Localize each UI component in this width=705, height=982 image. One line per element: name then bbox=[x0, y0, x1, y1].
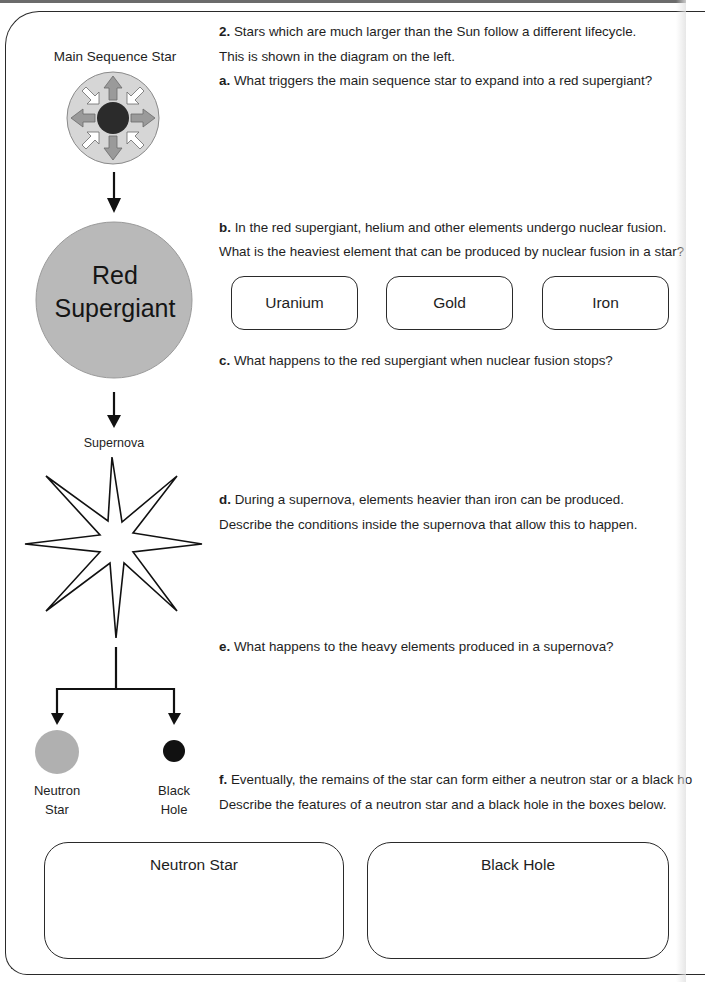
black-hole-label: Black Hole bbox=[134, 781, 214, 819]
black-hole-answer-box[interactable]: Black Hole bbox=[367, 842, 669, 959]
part-d-question-line2: Describe the conditions inside the super… bbox=[219, 517, 637, 533]
branch-arrows bbox=[51, 647, 181, 725]
part-a-text: What triggers the main sequence star to … bbox=[234, 73, 652, 88]
part-f-question: f. Eventually, the remains of the star c… bbox=[219, 772, 692, 788]
part-f-text: Eventually, the remains of the star can … bbox=[231, 772, 692, 787]
neutron-star-answer-box[interactable]: Neutron Star bbox=[44, 842, 344, 959]
part-d-text: During a supernova, elements heavier tha… bbox=[235, 492, 624, 507]
part-a-question: a. What triggers the main sequence star … bbox=[219, 73, 652, 89]
arrow-down-icon bbox=[107, 392, 121, 428]
red-supergiant-label: Red Supergiant bbox=[30, 259, 200, 325]
red-supergiant-label-line2: Supergiant bbox=[30, 292, 200, 325]
part-a-label: a. bbox=[219, 73, 230, 88]
option-gold-button[interactable]: Gold bbox=[386, 276, 513, 330]
neutron-star-label-line2: Star bbox=[17, 800, 97, 819]
part-b-question: b. In the red supergiant, helium and oth… bbox=[219, 220, 666, 236]
part-b-question-line2: What is the heaviest element that can be… bbox=[219, 244, 684, 260]
black-hole-answer-title: Black Hole bbox=[368, 856, 668, 874]
part-c-text: What happens to the red supergiant when … bbox=[234, 353, 613, 368]
part-b-label: b. bbox=[219, 220, 231, 235]
part-f-label: f. bbox=[219, 772, 227, 787]
neutron-star-answer-title: Neutron Star bbox=[45, 856, 343, 874]
question-intro-line2: This is shown in the diagram on the left… bbox=[219, 49, 455, 65]
question-intro-line1: 2. Stars which are much larger than the … bbox=[219, 24, 636, 40]
part-d-question: d. During a supernova, elements heavier … bbox=[219, 492, 624, 508]
black-hole-icon bbox=[163, 740, 185, 762]
main-sequence-star-icon bbox=[67, 72, 159, 164]
main-sequence-label: Main Sequence Star bbox=[30, 47, 200, 66]
part-e-text: What happens to the heavy elements produ… bbox=[234, 639, 614, 654]
red-supergiant-label-line1: Red bbox=[30, 259, 200, 292]
question-intro-text: Stars which are much larger than the Sun… bbox=[234, 24, 636, 39]
neutron-star-label: Neutron Star bbox=[17, 781, 97, 819]
neutron-star-icon bbox=[35, 730, 79, 774]
part-c-label: c. bbox=[219, 353, 230, 368]
supernova-label: Supernova bbox=[64, 434, 164, 453]
question-number: 2. bbox=[219, 24, 230, 39]
part-e-question: e. What happens to the heavy elements pr… bbox=[219, 639, 614, 655]
part-e-label: e. bbox=[219, 639, 230, 654]
arrow-down-icon bbox=[107, 172, 121, 213]
option-uranium-button[interactable]: Uranium bbox=[231, 276, 358, 330]
neutron-star-label-line1: Neutron bbox=[17, 781, 97, 800]
supernova-star-icon bbox=[25, 457, 202, 638]
part-c-question: c. What happens to the red supergiant wh… bbox=[219, 353, 613, 369]
page-edge-shadow bbox=[676, 0, 686, 982]
part-d-label: d. bbox=[219, 492, 231, 507]
option-iron-button[interactable]: Iron bbox=[542, 276, 669, 330]
black-hole-label-line1: Black bbox=[134, 781, 214, 800]
part-f-question-line2: Describe the features of a neutron star … bbox=[219, 797, 666, 813]
part-b-text: In the red supergiant, helium and other … bbox=[235, 220, 667, 235]
black-hole-label-line2: Hole bbox=[134, 800, 214, 819]
